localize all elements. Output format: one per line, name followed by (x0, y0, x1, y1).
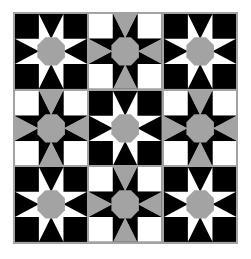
corner-square (63, 217, 87, 242)
octagon-center (37, 37, 64, 65)
star-block-icon (89, 91, 161, 166)
octagon-center (112, 190, 139, 218)
corner-square (138, 91, 162, 116)
corner-square (15, 64, 39, 89)
star-block-icon (89, 167, 161, 242)
corner-square (15, 217, 39, 242)
corner-square (89, 167, 113, 192)
quilt-block-r2c3-type-b (164, 91, 236, 166)
corner-square (15, 167, 39, 192)
corner-square (212, 64, 236, 89)
corner-square (212, 167, 236, 192)
corner-square (164, 14, 188, 39)
quilt-block-r2c2-type-a (89, 91, 161, 166)
corner-square (212, 141, 236, 166)
octagon-center (186, 190, 213, 218)
quilt-grid (13, 12, 238, 244)
octagon-center (37, 114, 64, 142)
corner-square (164, 167, 188, 192)
corner-square (164, 141, 188, 166)
star-block-icon (15, 14, 87, 89)
corner-square (89, 64, 113, 89)
corner-square (212, 14, 236, 39)
octagon-center (112, 114, 139, 142)
corner-square (138, 217, 162, 242)
corner-square (15, 14, 39, 39)
corner-square (164, 91, 188, 116)
quilt-block-r2c1-type-b (15, 91, 87, 166)
star-block-icon (15, 91, 87, 166)
quilt-block-r1c1-type-a (15, 14, 87, 89)
corner-square (89, 91, 113, 116)
corner-square (164, 217, 188, 242)
corner-square (212, 217, 236, 242)
star-block-icon (164, 167, 236, 242)
corner-square (63, 167, 87, 192)
corner-square (138, 14, 162, 39)
corner-square (63, 64, 87, 89)
corner-square (138, 141, 162, 166)
corner-square (15, 91, 39, 116)
corner-square (15, 141, 39, 166)
corner-square (164, 64, 188, 89)
quilt-block-r1c3-type-a (164, 14, 236, 89)
star-block-icon (164, 91, 236, 166)
quilt-block-r3c3-type-a (164, 167, 236, 242)
quilt-block-r3c1-type-a (15, 167, 87, 242)
quilt-block-r1c2-type-b (89, 14, 161, 89)
octagon-center (186, 37, 213, 65)
corner-square (63, 141, 87, 166)
octagon-center (37, 190, 64, 218)
octagon-center (112, 37, 139, 65)
corner-square (63, 14, 87, 39)
corner-square (138, 64, 162, 89)
corner-square (63, 91, 87, 116)
corner-square (212, 91, 236, 116)
corner-square (89, 14, 113, 39)
octagon-center (186, 114, 213, 142)
corner-square (89, 217, 113, 242)
quilt-block-r3c2-type-b (89, 167, 161, 242)
star-block-icon (89, 14, 161, 89)
corner-square (89, 141, 113, 166)
star-block-icon (15, 167, 87, 242)
corner-square (138, 167, 162, 192)
star-block-icon (164, 14, 236, 89)
